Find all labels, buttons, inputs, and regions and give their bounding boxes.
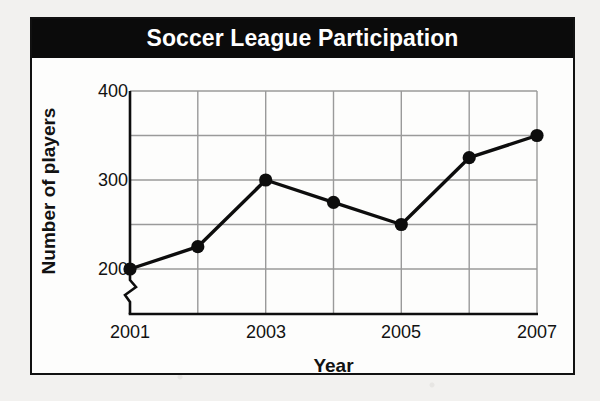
page-title: Soccer League Participation [146, 27, 458, 50]
x-tick-2003: 2003 [231, 322, 301, 343]
x-tick-2007: 2007 [502, 322, 572, 343]
x-tick-2005: 2005 [366, 322, 436, 343]
x-tick-2001: 2001 [95, 322, 165, 343]
data-point-2005[interactable] [395, 218, 408, 231]
plot-region: Number of players 400 300 200 [32, 58, 573, 373]
data-point-2001[interactable] [123, 262, 136, 275]
x-axis-label: Year [130, 355, 537, 377]
y-axis-break-zigzag [125, 269, 136, 314]
data-point-2007[interactable] [530, 129, 543, 142]
data-point-2002[interactable] [191, 240, 204, 253]
data-point-2003[interactable] [259, 173, 272, 186]
gridlines-vertical [198, 91, 537, 314]
chart-title-banner: Soccer League Participation [32, 19, 573, 58]
data-point-2006[interactable] [463, 151, 476, 164]
data-point-2004[interactable] [327, 196, 340, 209]
x-axis-tick-labels: 2001 2003 2005 2007 [32, 322, 573, 348]
chart-figure: Soccer League Participation Number of pl… [30, 17, 575, 375]
